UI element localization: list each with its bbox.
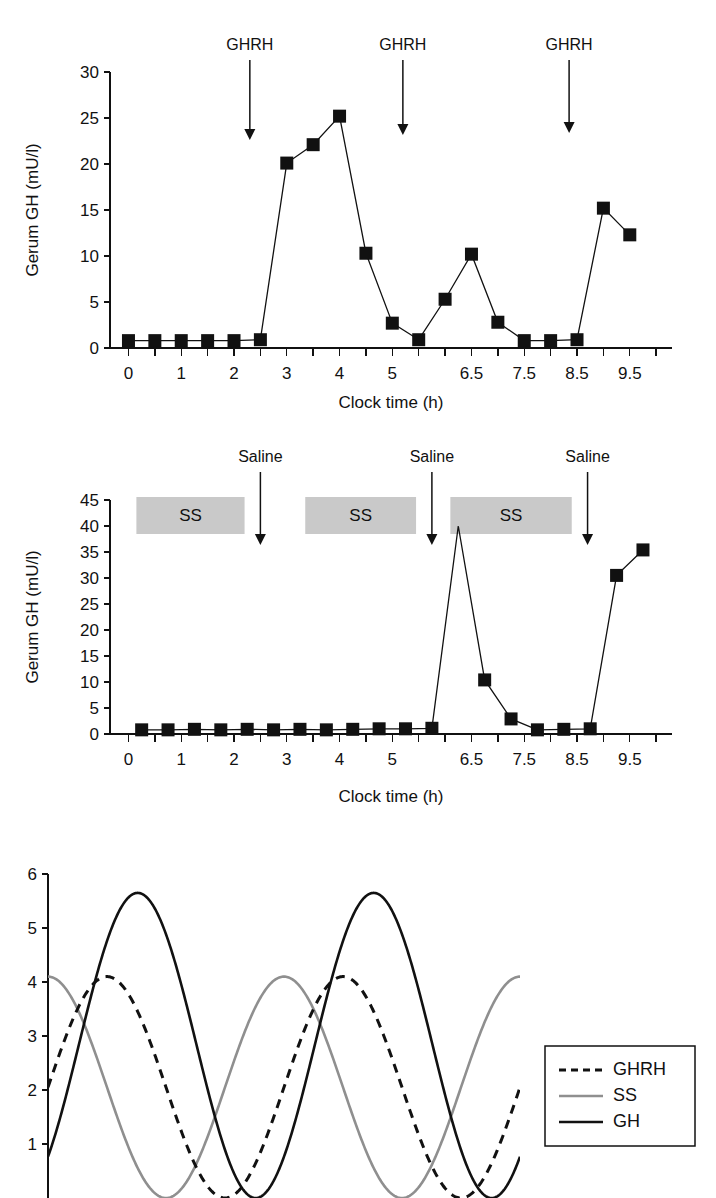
data-point-marker [359, 247, 372, 260]
annotation-label: Saline [238, 448, 283, 465]
annotation-marker: Saline [238, 448, 283, 545]
annotation-marker: Saline [410, 448, 455, 545]
y-tick-label: 30 [80, 569, 99, 588]
data-point-marker [267, 723, 280, 736]
x-tick-label: 3 [282, 364, 291, 383]
x-axis-title: Clock time (h) [339, 393, 444, 412]
y-tick-label: 25 [80, 109, 99, 128]
y-tick-label: 20 [80, 155, 99, 174]
y-axis: 123456 [28, 865, 48, 1198]
annotation-arrow [397, 60, 408, 135]
data-point-marker [491, 316, 504, 329]
annotation-marker: Saline [565, 448, 610, 545]
annotation-label: GHRH [379, 36, 426, 53]
data-point-marker [399, 722, 412, 735]
y-tick-label: 15 [80, 647, 99, 666]
y-tick-label: 30 [80, 63, 99, 82]
data-point-marker [544, 334, 557, 347]
x-tick-label: 7.5 [512, 364, 536, 383]
y-tick-label: 20 [80, 621, 99, 640]
x-tick-label: 7.5 [512, 750, 536, 769]
ss-infusion-bar: SS [305, 497, 416, 534]
data-point-marker [346, 723, 359, 736]
data-point-marker [307, 138, 320, 151]
wave-ghrh [48, 977, 520, 1198]
data-point-marker [584, 722, 597, 735]
data-series [135, 526, 649, 736]
data-point-marker [122, 334, 135, 347]
data-point-marker [162, 723, 175, 736]
x-tick-label: 1 [177, 364, 186, 383]
data-point-marker [478, 673, 491, 686]
x-tick-label: 3 [282, 750, 291, 769]
x-tick-label: 6.5 [460, 364, 484, 383]
y-axis: 051015202530 [80, 63, 110, 358]
ss-infusion-bar: SS [450, 497, 571, 534]
data-point-marker [241, 723, 254, 736]
y-tick-label: 35 [80, 543, 99, 562]
panel-oscillation-model: 123456GHRHSSGH [0, 840, 716, 1198]
data-point-marker [293, 723, 306, 736]
data-point-marker [425, 722, 438, 735]
ss-bar-label: SS [349, 506, 372, 525]
y-tick-label: 6 [28, 865, 37, 884]
data-point-marker [254, 333, 267, 346]
data-point-marker [280, 157, 293, 170]
y-tick-label: 1 [28, 1135, 37, 1154]
annotation-marker: GHRH [379, 36, 426, 135]
data-point-marker [597, 202, 610, 215]
data-point-marker [386, 317, 399, 330]
annotation-arrow [564, 60, 575, 133]
x-tick-label: 8.5 [565, 750, 589, 769]
y-tick-label: 40 [80, 517, 99, 536]
x-tick-label: 8.5 [565, 364, 589, 383]
panel-ss-saline: SSSSSS051015202530354045Gerum GH (mU/l)0… [0, 430, 716, 840]
annotation-label: Saline [410, 448, 455, 465]
ss-bar-label: SS [179, 506, 202, 525]
x-tick-label: 6.5 [460, 750, 484, 769]
x-axis: 0123456.57.58.59.5 [110, 348, 672, 383]
data-point-marker [636, 543, 649, 556]
y-tick-label: 10 [80, 247, 99, 266]
data-point-marker [571, 333, 584, 346]
data-series [122, 110, 636, 347]
data-point-marker [373, 722, 386, 735]
ss-infusion-bar: SS [136, 497, 244, 534]
annotation-label: GHRH [546, 36, 593, 53]
y-tick-label: 5 [90, 699, 99, 718]
data-point-marker [201, 334, 214, 347]
x-tick-label: 5 [388, 364, 397, 383]
y-tick-label: 0 [90, 725, 99, 744]
data-point-marker [188, 723, 201, 736]
data-point-marker [228, 334, 241, 347]
data-point-marker [623, 228, 636, 241]
x-tick-label: 9.5 [618, 364, 642, 383]
data-point-marker [557, 723, 570, 736]
panel-ghrh-stimulation: 051015202530Gerum GH (mU/l)0123456.57.58… [0, 0, 716, 430]
x-tick-label: 2 [229, 364, 238, 383]
x-tick-label: 5 [388, 750, 397, 769]
wave-gh [48, 893, 520, 1198]
legend-label: SS [613, 1085, 637, 1105]
y-axis-title: Gerum GH (mU/l) [23, 550, 42, 683]
x-tick-label: 0 [124, 364, 133, 383]
annotation-arrow [244, 60, 255, 140]
y-axis-title: Gerum GH (mU/l) [23, 143, 42, 276]
x-axis-title: Clock time (h) [339, 787, 444, 806]
annotation-marker: GHRH [546, 36, 593, 133]
data-point-marker [465, 248, 478, 261]
y-axis: 051015202530354045 [80, 491, 110, 744]
data-point-marker [175, 334, 188, 347]
y-tick-label: 3 [28, 1027, 37, 1046]
data-point-marker [135, 723, 148, 736]
data-point-marker [320, 723, 333, 736]
figure-container: 051015202530Gerum GH (mU/l)0123456.57.58… [0, 0, 716, 1198]
chart-ss-saline-svg: SSSSSS051015202530354045Gerum GH (mU/l)0… [0, 430, 716, 840]
ss-bar-label: SS [500, 506, 523, 525]
annotation-marker: GHRH [226, 36, 273, 140]
data-point-marker [610, 569, 623, 582]
data-point-marker [518, 334, 531, 347]
x-tick-label: 4 [335, 750, 344, 769]
legend-label: GHRH [613, 1059, 666, 1079]
data-point-marker [505, 712, 518, 725]
